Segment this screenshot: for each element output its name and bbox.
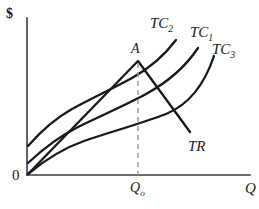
x-tick-label-q0: Qo [130, 181, 145, 198]
point-a-label: A [131, 42, 140, 56]
x-tick-q0-main: Q [130, 180, 140, 195]
curve-tc2 [28, 40, 176, 146]
curve-label-tc2-sub: 2 [168, 23, 173, 34]
x-axis-label: Q [245, 181, 256, 196]
curve-label-tr: TR [188, 139, 206, 154]
x-tick-q0-sub: o [140, 188, 145, 198]
chart-plot-area [0, 0, 259, 209]
curve-label-tc1-main: TC [190, 24, 208, 40]
curve-label-tc3-main: TC [212, 41, 230, 57]
origin-label: 0 [12, 168, 20, 183]
y-axis-label: $ [6, 7, 13, 21]
cost-revenue-chart: $ 0 Q Qo A TC2 TC1 TC3 TR [0, 0, 259, 209]
curve-label-tc2: TC2 [150, 16, 173, 34]
curve-label-tc3-sub: 3 [230, 49, 235, 60]
curve-label-tc3: TC3 [212, 42, 235, 60]
curve-label-tc1: TC1 [190, 25, 213, 43]
curve-tc3 [28, 56, 214, 174]
curve-tc1 [28, 48, 198, 163]
curve-label-tc2-main: TC [150, 15, 168, 31]
